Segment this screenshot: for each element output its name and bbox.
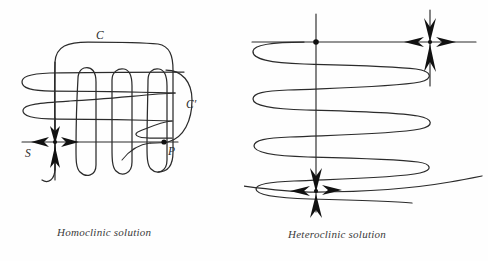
saddle-point-S [53, 140, 57, 144]
curve-lobe-upper-left [22, 72, 184, 93]
panel-heteroclinic: Q D′ S′ D S C′ [244, 0, 488, 261]
curve-oscillation [253, 42, 430, 203]
label-C: C [96, 30, 104, 42]
intersection-point-P [161, 139, 166, 144]
curve-finger-2 [76, 68, 96, 176]
saddle-point-S-prime [428, 40, 432, 44]
label-P: P [168, 146, 175, 158]
panel-homoclinic: C C′ P S [0, 0, 244, 261]
saddle-point-S-lower [314, 189, 318, 193]
label-S: S [25, 148, 31, 160]
curve-C-prime-tail [122, 143, 150, 160]
arrow-up-icon-S [310, 194, 322, 218]
caption-heteroclinic: Heteroclinic solution [288, 228, 386, 240]
homoclinic-diagram [0, 0, 244, 261]
intersection-point-Q [313, 39, 319, 45]
curve-C [55, 42, 173, 172]
figure-root: C C′ P S [0, 0, 488, 261]
label-C-prime: C′ [186, 99, 197, 111]
caption-homoclinic: Homoclinic solution [57, 226, 151, 238]
arrow-left-icon-S [290, 186, 310, 196]
curve-finger-3 [112, 69, 132, 174]
arrow-right-icon-S [322, 185, 342, 195]
heteroclinic-diagram [244, 0, 488, 261]
curve-lobe-middle-left [23, 93, 175, 121]
